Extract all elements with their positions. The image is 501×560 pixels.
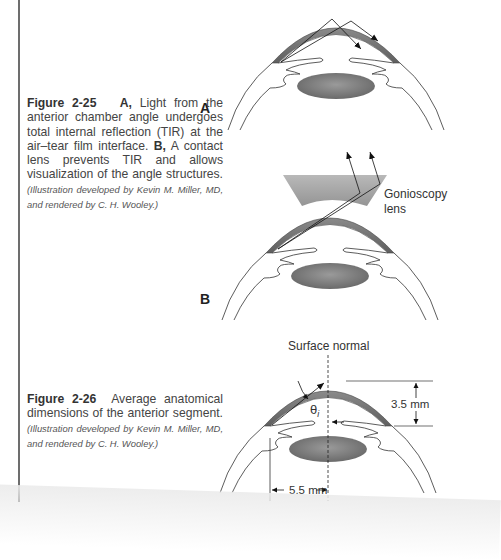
theta-label: θi	[310, 402, 320, 419]
eye-diagram-dimensions	[220, 355, 436, 501]
height-dimension-label: 3.5 mm	[391, 398, 429, 410]
gonioscopy-label-line1: Gonioscopy	[384, 187, 447, 201]
surface-normal-label: Surface normal	[288, 339, 369, 353]
gonioscopy-label-line2: lens	[384, 202, 406, 216]
eye-diagram-b	[222, 152, 438, 320]
gonioscopy-lens-shape	[283, 175, 387, 206]
eye-diagram-a	[228, 19, 444, 130]
